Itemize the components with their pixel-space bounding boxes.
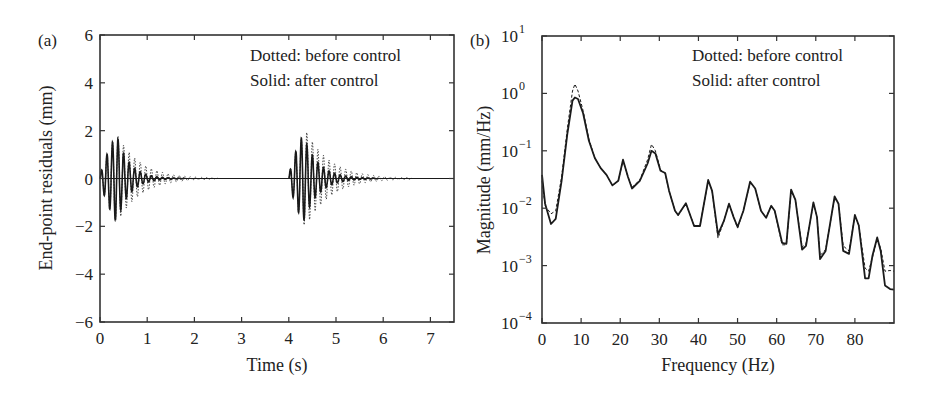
x-tick-label: 60 bbox=[768, 330, 785, 349]
x-tick-label: 2 bbox=[190, 329, 199, 348]
y-tick-label: 10 bbox=[501, 142, 518, 161]
x-tick-label: 40 bbox=[690, 330, 707, 349]
x-tick-label: 3 bbox=[237, 329, 246, 348]
y-tick-exponent: 1 bbox=[519, 22, 525, 36]
panel-b-legend-solid: Solid: after control bbox=[692, 71, 821, 90]
y-tick-label: −4 bbox=[75, 265, 94, 284]
x-tick-label: 30 bbox=[651, 330, 668, 349]
x-tick-label: 10 bbox=[573, 330, 590, 349]
y-tick-exponent: −2 bbox=[519, 194, 532, 208]
after-control-line bbox=[289, 138, 379, 219]
y-tick-exponent: −3 bbox=[519, 252, 532, 266]
panel-b-plot-lines bbox=[542, 84, 894, 290]
panel-a-ylabel: End-point residuals (mm) bbox=[36, 86, 57, 271]
y-tick-label: −6 bbox=[75, 313, 93, 332]
y-tick-label: 2 bbox=[85, 122, 94, 141]
x-tick-label: 70 bbox=[807, 330, 824, 349]
y-tick-exponent: −4 bbox=[519, 309, 532, 323]
x-tick-label: 7 bbox=[426, 329, 435, 348]
panel-b-xlabel: Frequency (Hz) bbox=[661, 355, 774, 376]
y-tick-label: 10 bbox=[501, 257, 518, 276]
y-tick-label: 10 bbox=[501, 314, 518, 333]
panel-b-frequency-spectrum: (b) 0102030405060708010−410−310−210−1100… bbox=[470, 22, 894, 376]
y-tick-label: 6 bbox=[85, 26, 94, 45]
panel-b-ylabel: Magnitude (mm/Hz) bbox=[474, 106, 495, 254]
panel-b-legend-dotted: Dotted: before control bbox=[692, 46, 843, 65]
x-tick-label: 4 bbox=[285, 329, 294, 348]
x-tick-label: 6 bbox=[379, 329, 388, 348]
panel-a-xlabel: Time (s) bbox=[247, 355, 308, 376]
y-tick-label: 10 bbox=[501, 84, 518, 103]
y-tick-label: 10 bbox=[501, 27, 518, 46]
y-tick-label: −2 bbox=[75, 217, 93, 236]
panel-b-label: (b) bbox=[470, 31, 490, 50]
panel-a-plot-lines bbox=[100, 133, 454, 225]
y-tick-label: 4 bbox=[85, 74, 94, 93]
x-tick-label: 20 bbox=[612, 330, 629, 349]
y-tick-label: 10 bbox=[501, 199, 518, 218]
x-tick-label: 5 bbox=[332, 329, 341, 348]
panel-a-time-response: (a) 01234567−6−4−20246 Dotted: before co… bbox=[36, 26, 454, 376]
after-control-line bbox=[542, 98, 894, 290]
y-tick-exponent: −1 bbox=[519, 137, 532, 151]
x-tick-label: 1 bbox=[143, 329, 152, 348]
y-tick-label: 0 bbox=[85, 170, 94, 189]
x-tick-label: 50 bbox=[729, 330, 746, 349]
before-control-line bbox=[542, 84, 894, 271]
panel-a-label: (a) bbox=[38, 31, 57, 50]
panel-a-legend-solid: Solid: after control bbox=[250, 71, 379, 90]
x-tick-label: 80 bbox=[846, 330, 863, 349]
panel-a-legend-dotted: Dotted: before control bbox=[250, 46, 401, 65]
figure: (a) 01234567−6−4−20246 Dotted: before co… bbox=[0, 0, 928, 399]
x-tick-label: 0 bbox=[538, 330, 547, 349]
y-tick-exponent: 0 bbox=[519, 79, 525, 93]
x-tick-label: 0 bbox=[96, 329, 105, 348]
